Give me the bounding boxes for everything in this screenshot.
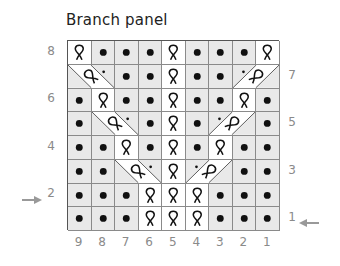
purl-dot-icon (139, 41, 163, 65)
purl-dot-icon (115, 65, 139, 89)
twisted-knit-icon (139, 184, 163, 208)
row-number-label: 5 (285, 115, 299, 129)
purl-dot-icon (68, 136, 92, 160)
twisted-knit-icon (139, 207, 163, 231)
twisted-knit-icon (162, 112, 186, 136)
row-number-label: 3 (285, 163, 299, 177)
row-number-label: 1 (285, 210, 299, 224)
purl-dot-icon (233, 41, 257, 65)
row-number-label: 7 (285, 68, 299, 82)
purl-dot-icon (68, 160, 92, 184)
purl-dot-icon (92, 160, 116, 184)
twisted-knit-icon (186, 184, 210, 208)
purl-dot-icon (209, 89, 233, 113)
twisted-knit-icon (92, 89, 116, 113)
purl-dot-icon (256, 184, 280, 208)
twisted-knit-icon (162, 207, 186, 231)
twisted-knit-icon (162, 184, 186, 208)
purl-dot-icon (209, 41, 233, 65)
purl-dot-icon (115, 207, 139, 231)
twisted-knit-icon (162, 160, 186, 184)
left-cross-stitch-icon (233, 65, 280, 89)
purl-dot-icon (186, 41, 210, 65)
row-number-label: 4 (44, 139, 58, 153)
purl-dot-icon (115, 41, 139, 65)
twisted-knit-icon (162, 41, 186, 65)
purl-dot-icon (256, 89, 280, 113)
purl-dot-icon (256, 160, 280, 184)
purl-dot-icon (233, 160, 257, 184)
column-number-label: 8 (91, 235, 114, 249)
purl-dot-icon (186, 112, 210, 136)
left-cross-stitch-icon (209, 112, 256, 136)
purl-dot-icon (186, 136, 210, 160)
twisted-knit-icon (186, 207, 210, 231)
purl-dot-icon (68, 184, 92, 208)
purl-dot-icon (68, 112, 92, 136)
purl-dot-icon (209, 207, 233, 231)
purl-dot-icon (233, 207, 257, 231)
purl-dot-icon (186, 89, 210, 113)
column-number-label: 3 (208, 235, 231, 249)
purl-dot-icon (92, 207, 116, 231)
column-number-label: 7 (114, 235, 137, 249)
purl-dot-icon (256, 136, 280, 160)
row-number-label: 8 (44, 44, 58, 58)
column-number-label: 1 (255, 235, 278, 249)
purl-dot-icon (186, 65, 210, 89)
twisted-knit-icon (68, 41, 92, 65)
twisted-knit-icon (209, 136, 233, 160)
right-cross-stitch-icon (68, 65, 115, 89)
purl-dot-icon (233, 136, 257, 160)
row-number-label: 2 (44, 186, 58, 200)
twisted-knit-icon (162, 89, 186, 113)
purl-dot-icon (256, 112, 280, 136)
purl-dot-icon (92, 184, 116, 208)
purl-dot-icon (139, 112, 163, 136)
start-arrow-right-icon (22, 190, 42, 209)
purl-dot-icon (115, 184, 139, 208)
column-number-label: 5 (161, 235, 184, 249)
purl-dot-icon (139, 65, 163, 89)
twisted-knit-icon (162, 65, 186, 89)
purl-dot-icon (68, 207, 92, 231)
purl-dot-icon (139, 89, 163, 113)
row-number-label: 6 (44, 91, 58, 105)
purl-dot-icon (139, 136, 163, 160)
purl-dot-icon (256, 207, 280, 231)
purl-dot-icon (92, 41, 116, 65)
right-cross-stitch-icon (115, 160, 162, 184)
column-number-label: 9 (67, 235, 90, 249)
twisted-knit-icon (115, 136, 139, 160)
stitch-chart-grid (67, 40, 279, 230)
left-cross-stitch-icon (186, 160, 233, 184)
twisted-knit-icon (256, 41, 280, 65)
purl-dot-icon (209, 184, 233, 208)
column-number-label: 4 (185, 235, 208, 249)
start-arrow-left-icon (299, 213, 319, 232)
column-number-label: 2 (232, 235, 255, 249)
twisted-knit-icon (233, 89, 257, 113)
chart-title: Branch panel (66, 11, 168, 29)
purl-dot-icon (92, 136, 116, 160)
twisted-knit-icon (162, 136, 186, 160)
purl-dot-icon (233, 184, 257, 208)
column-number-label: 6 (138, 235, 161, 249)
purl-dot-icon (68, 89, 92, 113)
purl-dot-icon (115, 89, 139, 113)
purl-dot-icon (209, 65, 233, 89)
right-cross-stitch-icon (92, 112, 139, 136)
